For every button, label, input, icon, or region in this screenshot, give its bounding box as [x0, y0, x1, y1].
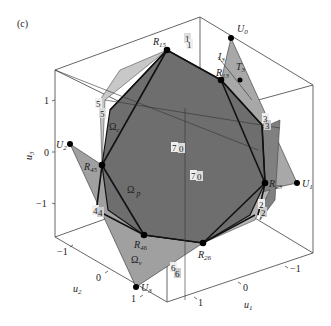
svg-text:4: 4: [98, 208, 103, 218]
svg-text:3: 3: [265, 121, 270, 131]
u2-axis-label: u2: [73, 283, 82, 296]
u1-axis-label: u1: [244, 299, 253, 312]
label-R15: R15: [152, 36, 167, 49]
svg-text:−1: −1: [36, 198, 47, 209]
label-I3: I3: [217, 51, 225, 64]
svg-text:5: 5: [100, 109, 105, 119]
label-U3: U3: [141, 282, 152, 295]
svg-text:1: 1: [198, 297, 203, 308]
polytope-3d-diagram: 1 1 3 3 5 5 4 4 6 6 2 2 7 0 7 0 U0 U1 U2…: [0, 0, 331, 326]
svg-text:0: 0: [197, 172, 202, 182]
label-R26: R26: [197, 249, 212, 262]
label-U2: U2: [56, 139, 67, 152]
svg-text:2: 2: [261, 208, 266, 218]
svg-text:7: 7: [191, 171, 196, 181]
svg-text:5: 5: [96, 99, 101, 109]
svg-text:7: 7: [172, 143, 177, 153]
svg-text:0: 0: [179, 144, 184, 154]
label-U1: U1: [302, 178, 313, 191]
label-U0: U0: [237, 23, 248, 36]
svg-text:1: 1: [44, 95, 49, 106]
svg-text:−1: −1: [57, 246, 68, 257]
svg-text:0: 0: [96, 272, 101, 283]
svg-text:0: 0: [243, 282, 248, 293]
axis-u3: 1 0 −1 u3: [23, 95, 55, 209]
svg-text:1: 1: [187, 40, 192, 50]
u3-axis-label: u3: [23, 151, 36, 160]
svg-text:−1: −1: [290, 263, 301, 274]
svg-text:1: 1: [131, 293, 136, 304]
svg-text:0: 0: [44, 147, 49, 158]
svg-text:6: 6: [175, 269, 180, 279]
panel-label: (c): [17, 18, 28, 30]
